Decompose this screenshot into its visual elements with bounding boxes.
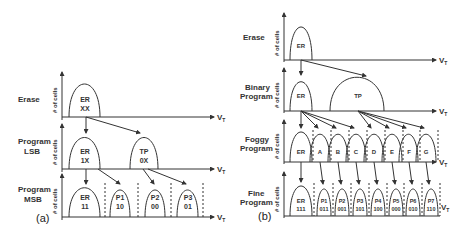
state-label: ER (297, 43, 306, 49)
y-axis-label: # of cells (274, 186, 280, 212)
state-label: P7 (428, 198, 435, 204)
row-label-program: Program (240, 144, 273, 153)
y-axis-label: # of cells (52, 139, 58, 165)
row-label-binary: Binary (245, 83, 270, 92)
row-label-erase: Erase (18, 95, 40, 104)
panel-a-labels: Erase Program LSB Program MSB # of cells… (18, 87, 225, 224)
panel-b-caption: (b) (258, 210, 271, 222)
state-label: TP (354, 93, 362, 99)
state-label: P2 (339, 198, 346, 204)
state-code: 011 (320, 206, 329, 212)
y-axis-label: # of cells (274, 133, 280, 159)
state-code: 111 (296, 206, 306, 212)
x-axis-label: VT (441, 203, 449, 213)
state-label: ER (297, 93, 306, 99)
state-label: P6 (410, 198, 417, 204)
row-b-binary (284, 60, 436, 113)
state-label: P5 (393, 198, 400, 204)
row-label-program: Program (240, 92, 273, 101)
state-label: G (424, 149, 429, 155)
state-code: 101 (355, 206, 364, 212)
state-label: P1 (321, 198, 328, 204)
flash-programming-diagram: Erase Program LSB Program MSB # of cells… (0, 0, 468, 235)
state-label: E (390, 149, 394, 155)
row-label-program: Program (240, 198, 273, 207)
state-label: F (407, 149, 411, 155)
state-code: 0X (140, 157, 149, 164)
y-axis-label: # of cells (274, 30, 280, 56)
x-axis-label: VT (439, 158, 447, 168)
state-label: C (354, 149, 359, 155)
state-label: ER (297, 149, 306, 155)
state-code: 1X (81, 157, 90, 164)
state-label: TP (140, 148, 149, 155)
state-code: XX (80, 105, 90, 112)
state-label: B (336, 149, 341, 155)
state-code: 100 (373, 206, 382, 212)
row-b-erase (284, 13, 436, 62)
state-label: D (372, 149, 377, 155)
row-b-foggy (284, 111, 438, 164)
panel-a-caption: (a) (36, 212, 49, 224)
row-label-program: Program (18, 185, 51, 194)
y-axis-label: # of cells (52, 87, 58, 113)
state-label: P2 (151, 194, 160, 201)
state-code: 000 (391, 206, 400, 212)
state-label: ER (297, 198, 306, 204)
row-label-program: Program (18, 137, 51, 146)
panel-b (284, 13, 440, 218)
state-label: P4 (375, 198, 383, 204)
x-axis-label: VT (217, 113, 225, 123)
state-label: ER (80, 96, 90, 103)
x-axis-label: VT (217, 165, 225, 175)
state-label: P3 (357, 198, 364, 204)
y-axis-label: # of cells (52, 188, 58, 214)
row-label-msb: MSB (24, 195, 42, 204)
state-code: 110 (427, 206, 436, 212)
row-label-erase: Erase (243, 33, 265, 42)
panel-b-labels: Erase Binary Program Foggy Program Fine … (240, 30, 449, 222)
state-code: 010 (408, 206, 417, 212)
state-code: 01 (184, 203, 192, 210)
state-code: 001 (337, 206, 346, 212)
x-axis-label: VT (217, 213, 225, 223)
state-code: 10 (116, 203, 124, 210)
y-axis-label: # of cells (274, 82, 280, 108)
x-axis-label: VT (439, 107, 447, 117)
row-label-foggy: Foggy (245, 135, 270, 144)
state-code: 00 (151, 203, 159, 210)
x-axis-label: VT (439, 56, 447, 66)
state-label: ER (80, 194, 90, 201)
state-label: A (318, 149, 323, 155)
row-label-fine: Fine (248, 189, 265, 198)
state-label: P3 (184, 194, 193, 201)
state-code: 11 (81, 203, 89, 210)
state-label: P1 (116, 194, 125, 201)
row-label-lsb: LSB (24, 147, 40, 156)
state-label: ER (80, 148, 90, 155)
